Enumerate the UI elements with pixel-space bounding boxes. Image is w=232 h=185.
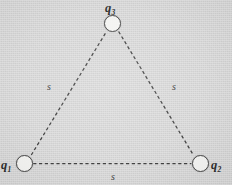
- charge-node-q2: [192, 155, 209, 172]
- charge-node-q3: [104, 15, 121, 32]
- edge-q3-q2: [119, 32, 194, 156]
- side-label-q3-q2: s: [172, 82, 176, 92]
- edge-q1-q3: [31, 32, 106, 156]
- charge-label-q1-letter: q: [1, 158, 7, 172]
- side-label-q1-q3: s: [47, 82, 51, 92]
- charge-label-q3-subscript: 3: [112, 8, 116, 17]
- charge-label-q2-subscript: 2: [218, 165, 222, 174]
- charge-label-q3-letter: q: [105, 1, 111, 15]
- charge-label-q2: q2: [211, 159, 221, 172]
- charge-label-q2-letter: q: [211, 158, 217, 172]
- charge-label-q1-subscript: 1: [8, 165, 12, 174]
- side-label-q1-q2: s: [111, 172, 115, 182]
- charge-label-q3: q3: [105, 2, 115, 15]
- charge-label-q1: q1: [1, 159, 11, 172]
- charge-triangle-figure: q3 q1 q2 s s s: [0, 0, 232, 185]
- charge-node-q1: [16, 155, 33, 172]
